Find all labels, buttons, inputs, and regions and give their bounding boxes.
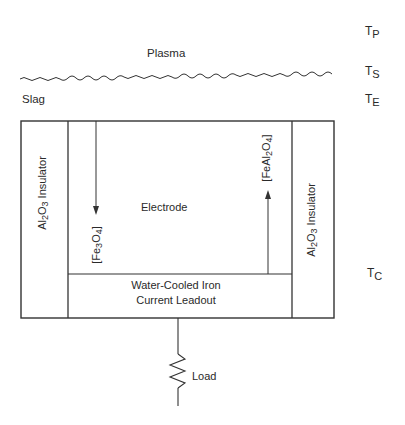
load-label: Load	[192, 370, 216, 382]
plasma-label: Plasma	[147, 47, 185, 59]
leadout-label-line1: Water-Cooled Iron	[116, 279, 236, 291]
formula-sub: 3	[40, 201, 50, 206]
slag-label: Slag	[22, 93, 45, 105]
leadout-label-line2: Current Leadout	[116, 294, 236, 306]
formula-text: O	[90, 234, 102, 243]
insulator-text: Insulator	[36, 156, 48, 198]
formula-sub: 4	[264, 137, 274, 142]
temp-surface: TS	[365, 64, 380, 78]
formula-text: O	[260, 142, 272, 151]
temp-cooled: TC	[367, 266, 382, 280]
arrow-down-icon	[93, 206, 99, 215]
formula-sub: 2	[309, 242, 319, 247]
formula-sub: 2	[40, 215, 50, 220]
electrode-label: Electrode	[141, 201, 187, 213]
formula-sub: 3	[94, 243, 104, 248]
load-resistor-icon	[170, 318, 185, 406]
formula-text: O	[36, 206, 48, 215]
arrow-up-icon	[265, 190, 271, 199]
temp-sub: S	[372, 68, 379, 80]
temp-electrode: TE	[365, 92, 380, 106]
diagram-canvas	[0, 0, 405, 425]
temp-sub: E	[372, 96, 379, 108]
formula-text: Fe	[90, 248, 102, 261]
formula-sub: 3	[309, 228, 319, 233]
formula-text: FeAl	[260, 156, 272, 179]
left-insulator-label: Al2O3 Insulator	[36, 138, 52, 248]
formula-text: Al	[305, 247, 317, 257]
feal2o4-label: [FeAl2O4]	[260, 128, 276, 188]
formula-text: Al	[36, 220, 48, 230]
formula-sub: 4	[94, 229, 104, 234]
temp-plasma: TP	[365, 24, 380, 38]
fe3o4-label: [Fe3O4]	[90, 220, 106, 270]
right-insulator-label: Al2O3 Insulator	[305, 165, 321, 275]
formula-sub: 2	[264, 151, 274, 156]
temp-sub: P	[372, 28, 379, 40]
insulator-text: Insulator	[305, 183, 317, 225]
slag-surface-wave	[20, 72, 332, 81]
temp-sub: C	[374, 270, 382, 282]
formula-text: O	[305, 233, 317, 242]
